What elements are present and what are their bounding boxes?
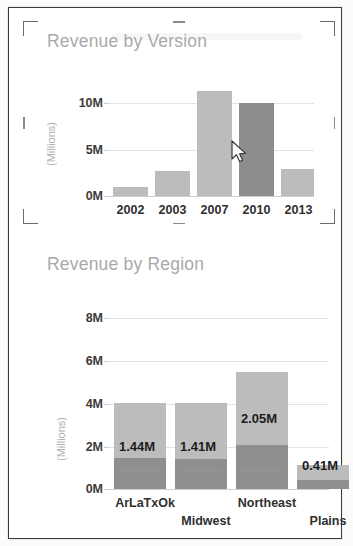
selection-corner-bottom-right[interactable] [320,209,335,224]
chart2-baseline [109,489,329,490]
chart2-tick-4m [104,404,109,405]
chart2-bar-northeast-upper[interactable] [236,372,288,445]
chart2-ytick-4m: 4M [53,397,103,411]
report-canvas[interactable]: Revenue by Version (Millions) [8,7,342,539]
chart2-datalabel-plains: 0.41M [302,458,338,473]
chart2-ytick-0m: 0M [53,482,103,496]
chart2-datalabel-midwest: 1.41M [180,439,216,454]
chart2-y-axis-title: (Millions) [55,417,67,461]
chart2-datalabel-northeast: 2.05M [241,411,277,426]
selection-corner-bottom-left[interactable] [23,209,38,224]
chart2-plot-area [109,308,329,490]
selection-handle-right[interactable] [334,117,336,129]
chart2-xtick-plains[interactable]: Plains [268,514,353,528]
scan-artifact [118,468,162,474]
chart2-xtick-midwest[interactable]: Midwest [146,514,266,528]
chart2-xtick-arlatxok[interactable]: ArLaTxOk [85,496,205,510]
selection-handle-left[interactable] [23,117,25,129]
chart2-datalabel-arlatxok: 1.44M [119,439,155,454]
chart2-bar-midwest-lower[interactable] [175,459,227,489]
scanned-page: Revenue by Version (Millions) [0,0,353,546]
selection-handle-bottom[interactable] [173,223,185,225]
chart2-gridline-8m [109,318,329,319]
chart-revenue-by-region[interactable]: Revenue by Region (Millions) [23,246,335,542]
chart2-ytick-8m: 8M [53,311,103,325]
selection-corner-top-left[interactable] [23,21,38,36]
chart2-ytick-6m: 6M [53,354,103,368]
selection-handle-top[interactable] [173,21,185,23]
chart2-tick-8m [104,318,109,319]
chart2-gridline-6m [109,361,329,362]
chart2-bar-northeast-lower[interactable] [236,445,288,489]
chart2-bar-plains-lower[interactable] [297,480,349,489]
visual-selection-frame [23,21,335,224]
selection-corner-top-right[interactable] [320,21,335,36]
chart2-tick-0m [104,489,109,490]
chart2-tick-6m [104,361,109,362]
chart2-tick-2m [104,447,109,448]
scan-artifact [240,468,284,474]
chart2-title: Revenue by Region [47,254,204,275]
scan-artifact [179,468,223,474]
chart2-ytick-2m: 2M [53,440,103,454]
chart2-xtick-northeast[interactable]: Northeast [207,496,327,510]
